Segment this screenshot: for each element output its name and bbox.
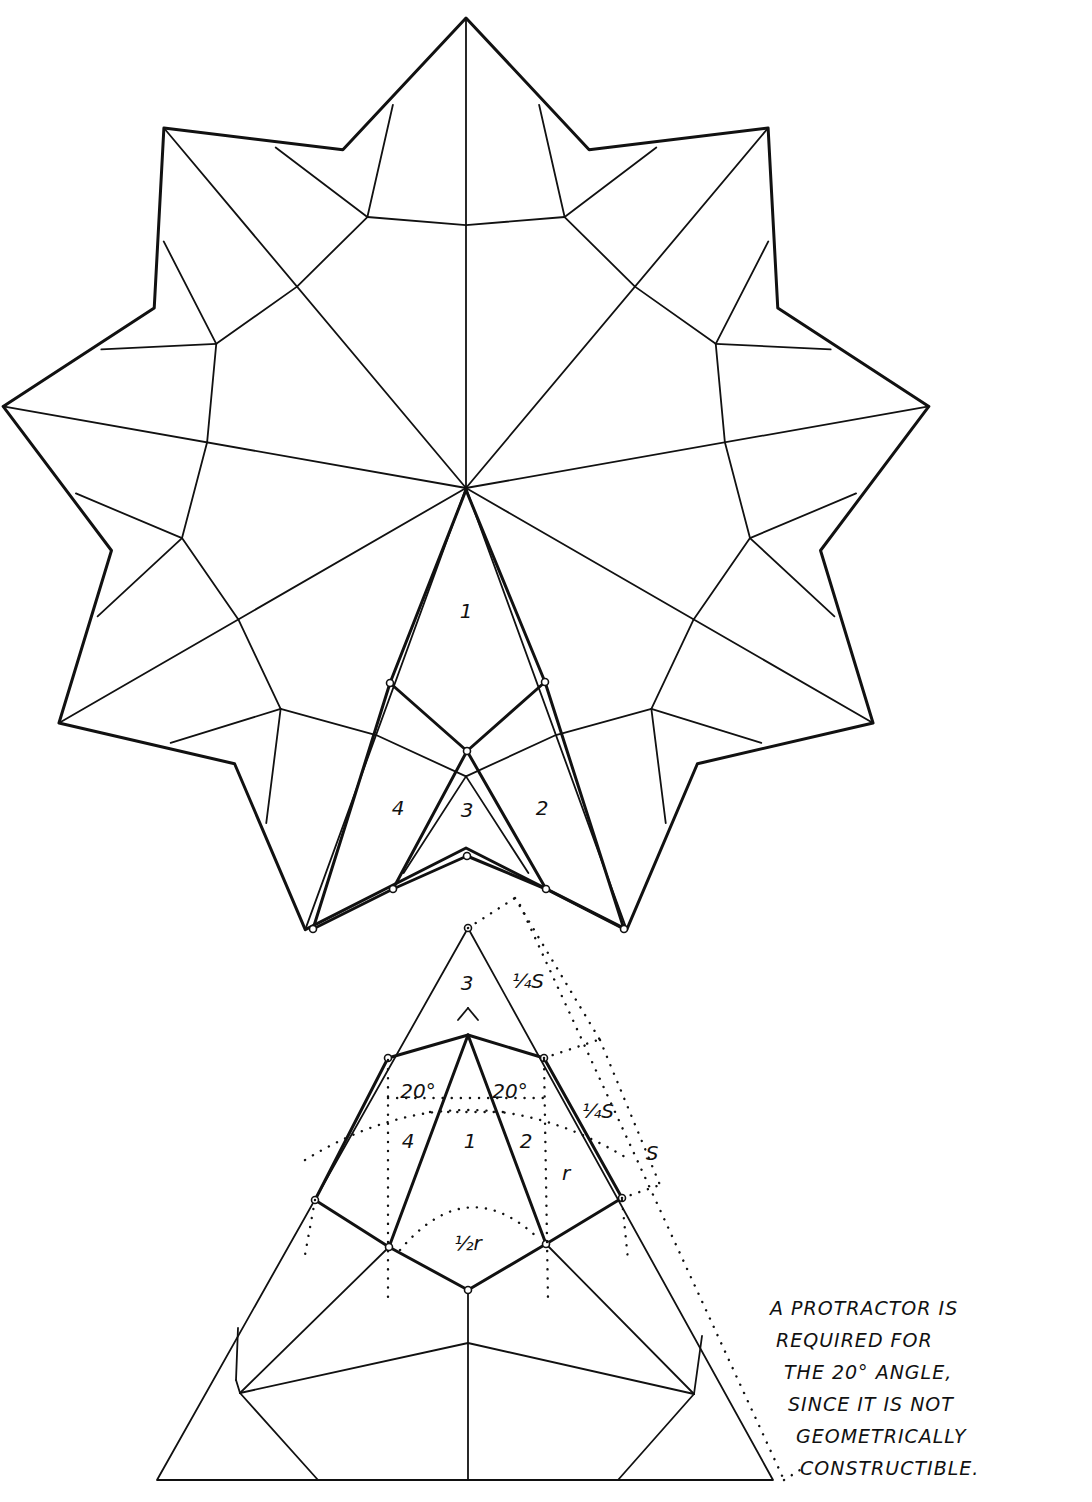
line <box>182 442 207 538</box>
label: ¼S <box>512 969 544 993</box>
line <box>622 1200 628 1260</box>
line <box>466 128 768 488</box>
line <box>164 128 466 488</box>
line <box>238 619 280 708</box>
label: S <box>646 1141 659 1165</box>
note-line: GEOMETRICALLY <box>770 1420 979 1452</box>
edge <box>240 1343 694 1394</box>
line <box>716 344 831 350</box>
line <box>240 1247 389 1393</box>
line <box>544 1060 548 1300</box>
label: 3 <box>461 971 474 995</box>
label: 3 <box>461 798 474 822</box>
note-line: A PROTRACTOR IS <box>770 1292 979 1324</box>
line <box>651 709 761 743</box>
line <box>546 1244 694 1394</box>
line <box>3 406 466 488</box>
line <box>182 538 238 619</box>
vertex-marker <box>465 1287 472 1294</box>
line <box>297 217 367 287</box>
line <box>520 905 784 1480</box>
line <box>281 709 376 735</box>
line <box>716 344 725 443</box>
vertex-marker <box>390 886 397 893</box>
line <box>236 1328 238 1380</box>
line <box>216 287 297 344</box>
line <box>466 406 929 488</box>
line <box>725 442 750 538</box>
note-line: CONSTRUCTIBLE. <box>770 1452 979 1484</box>
label: 20° <box>492 1079 527 1103</box>
vertex-marker <box>310 926 317 933</box>
highlighted-kite-pieces <box>310 490 628 933</box>
protractor-note: A PROTRACTOR IS REQUIRED FOR THE 20° ANG… <box>770 1292 979 1484</box>
edge <box>313 490 466 929</box>
line <box>622 1185 660 1198</box>
line <box>750 493 856 538</box>
line <box>466 217 565 225</box>
line <box>565 217 635 287</box>
line <box>466 488 873 723</box>
line <box>276 147 368 217</box>
line <box>539 105 565 217</box>
label: 2 <box>536 796 549 820</box>
line <box>618 1394 694 1480</box>
note-line: SINCE IT IS NOT <box>770 1388 979 1420</box>
edge <box>466 490 624 929</box>
vertex-marker <box>464 853 471 860</box>
label: 2 <box>520 1129 533 1153</box>
line <box>164 241 217 343</box>
note-line: THE 20° ANGLE, <box>770 1356 979 1388</box>
line <box>565 147 657 217</box>
line <box>240 1393 318 1480</box>
line <box>468 1035 546 1244</box>
edge <box>390 682 545 751</box>
label: 4 <box>402 1129 415 1153</box>
line <box>694 538 750 619</box>
line <box>367 217 466 225</box>
vertex-marker <box>386 1244 393 1251</box>
line <box>651 709 665 823</box>
vertex-marker <box>543 886 550 893</box>
line <box>544 1040 598 1058</box>
label: ¼S <box>582 1099 614 1123</box>
vertex-marker <box>621 926 628 933</box>
line <box>468 898 515 928</box>
line <box>556 709 651 735</box>
line <box>651 619 693 708</box>
vertex-marker <box>542 679 549 686</box>
line <box>458 1008 468 1020</box>
vertex-marker <box>464 748 471 755</box>
line <box>207 344 216 443</box>
line <box>266 709 280 823</box>
line <box>367 105 393 217</box>
label: r <box>562 1161 572 1185</box>
edge <box>313 856 624 929</box>
line <box>236 1380 240 1393</box>
construction-triangle <box>157 898 800 1480</box>
line <box>171 709 281 743</box>
label: 4 <box>392 796 405 820</box>
label: 1 <box>460 599 473 623</box>
label: ½r <box>454 1231 483 1255</box>
line <box>101 344 216 350</box>
vertex-marker <box>387 680 394 687</box>
line <box>76 493 182 538</box>
line <box>59 488 466 723</box>
line <box>635 287 716 344</box>
line <box>404 776 466 873</box>
note-line: REQUIRED FOR <box>770 1324 979 1356</box>
line <box>468 1008 478 1020</box>
star-construction-drawing: 1234341220°20°¼S¼SSr½r <box>0 0 1092 1502</box>
label: 1 <box>464 1129 477 1153</box>
nine-pointed-star <box>3 18 929 930</box>
label: 20° <box>400 1079 435 1103</box>
line <box>376 735 466 776</box>
line <box>716 241 769 343</box>
